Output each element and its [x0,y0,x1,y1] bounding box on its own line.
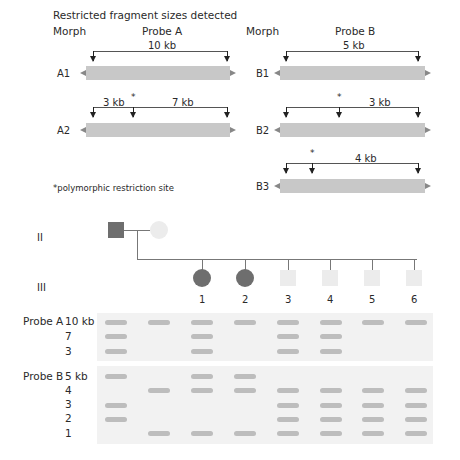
b1-span-line [286,51,418,52]
a2-dna-bar [86,123,230,137]
a2-endcap-left [80,127,86,133]
gel-band [148,388,170,393]
gel-band [405,388,427,393]
gel-band [405,431,427,436]
gel-band [191,374,213,379]
probe-a-header: Probe A [142,25,182,37]
b1-label: B1 [256,68,269,79]
b2-star: * [337,92,342,102]
gel-band [234,374,256,379]
gel-b-size-3: 3 [65,398,72,410]
footnote: *polymorphic restriction site [53,183,174,193]
gel-band [405,320,427,325]
gel-band [405,403,427,408]
gel-band [277,349,299,354]
gel-band [320,388,342,393]
gel-band [277,320,299,325]
gel-band [320,403,342,408]
gel-b-size-1: 1 [65,427,72,439]
gel-band [191,334,213,339]
b2-label: B2 [256,125,269,136]
a1-endcap-left [80,70,86,76]
gel-band [277,417,299,422]
a1-endcap-right [230,70,236,76]
child-number-6: 6 [411,294,417,305]
child-5-unaffected-male [364,270,380,286]
child-1-affected-female [193,269,211,287]
father-affected-male [108,222,124,238]
b3-endcap-left [274,183,280,189]
mother-unaffected-female [150,221,168,239]
morph-header-a: Morph [53,25,86,37]
child-5-line [372,259,373,270]
gel-band [362,431,384,436]
child-number-5: 5 [369,294,375,305]
gel-band [320,349,342,354]
gel-band [105,374,127,379]
sibship-line [137,259,417,260]
child-4-line [330,259,331,270]
gel-band [277,334,299,339]
b3-arrow-left [286,163,287,173]
b2-dna-bar [280,123,425,137]
generation-label-iii: III [37,282,46,293]
descent-line [137,230,138,260]
child-number-1: 1 [199,294,205,305]
gel-band [405,417,427,422]
gel-a-size-3: 3 [65,345,72,357]
gel-band [148,431,170,436]
gel-band [191,349,213,354]
gel-band [277,431,299,436]
gel-panel-probe-a [97,313,433,361]
probe-b-header: Probe B [335,25,375,37]
gel-band [320,431,342,436]
a1-dna-bar [86,66,230,80]
generation-label-ii: II [37,232,43,243]
b3-arrow-right [418,163,419,173]
a2-span-line [93,107,227,108]
b3-label: B3 [256,181,269,192]
b2-endcap-right [425,127,431,133]
gel-b-size-5: 5 kb [65,370,88,382]
gel-b-size-2: 2 [65,412,72,424]
b2-arrow-mid [339,107,340,117]
child-number-2: 2 [242,294,248,305]
gel-band [105,349,127,354]
gel-band [277,403,299,408]
child-6-line [414,259,415,270]
child-number-4: 4 [327,294,333,305]
gel-band [362,388,384,393]
b2-arrow-right [418,107,419,117]
b2-endcap-left [274,127,280,133]
gel-band [234,388,256,393]
a2-arrow-left [93,107,94,117]
b2-span-line [286,107,418,108]
gel-band [191,431,213,436]
child-2-affected-female [236,269,254,287]
gel-b-size-4: 4 [65,384,72,396]
a1-label: A1 [57,68,70,79]
a2-endcap-right [230,127,236,133]
gel-band [105,417,127,422]
child-number-3: 3 [285,294,291,305]
gel-band [234,320,256,325]
gel-band [191,388,213,393]
child-6-unaffected-male [406,270,422,286]
b3-arrow-mid [312,163,313,173]
morph-header-b: Morph [246,25,279,37]
b3-dna-bar [280,179,425,193]
a1-arrow-left [93,51,94,61]
gel-band [362,320,384,325]
child-4-unaffected-male [322,270,338,286]
a1-segment-label: 10 kb [148,40,176,51]
b3-endcap-right [425,183,431,189]
b1-arrow-right [418,51,419,61]
gel-band [362,417,384,422]
figure-title: Restricted fragment sizes detected [53,9,237,21]
gel-band [191,320,213,325]
a2-arrow-mid [133,107,134,117]
b1-endcap-right [425,70,431,76]
gel-probe-b-label: Probe B [23,370,63,382]
a2-label: A2 [57,125,70,136]
b1-endcap-left [274,70,280,76]
